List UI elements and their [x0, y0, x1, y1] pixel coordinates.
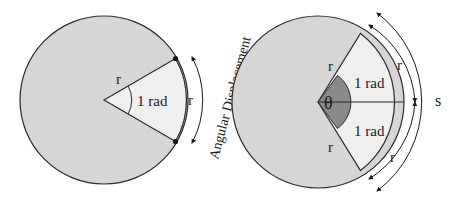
- lower-sector-label: 1 rad: [354, 123, 385, 139]
- left-panel: r 1 rad r Angular Displacement: [20, 16, 254, 184]
- left-radius-label: r: [116, 71, 121, 87]
- left-angle-label: 1 rad: [137, 93, 168, 109]
- right-panel: θ 1 rad 1 rad r r r r s: [232, 13, 441, 191]
- lower-radius-label: r: [328, 139, 333, 155]
- upper-sector-label: 1 rad: [354, 75, 385, 91]
- radian-diagram: r 1 rad r Angular Displacement θ 1 rad 1…: [0, 0, 456, 205]
- theta-label: θ: [324, 93, 333, 113]
- left-arc-dimension-arrow: [192, 57, 203, 143]
- lower-arc-label: r: [390, 149, 395, 165]
- left-arc-length-label: r: [188, 92, 193, 108]
- upper-radius-label: r: [328, 58, 333, 74]
- left-arc-endpoint-top: [173, 56, 178, 61]
- left-arc-endpoint-bottom: [173, 139, 178, 144]
- total-arc-label: s: [435, 92, 441, 109]
- upper-arc-label: r: [397, 57, 402, 73]
